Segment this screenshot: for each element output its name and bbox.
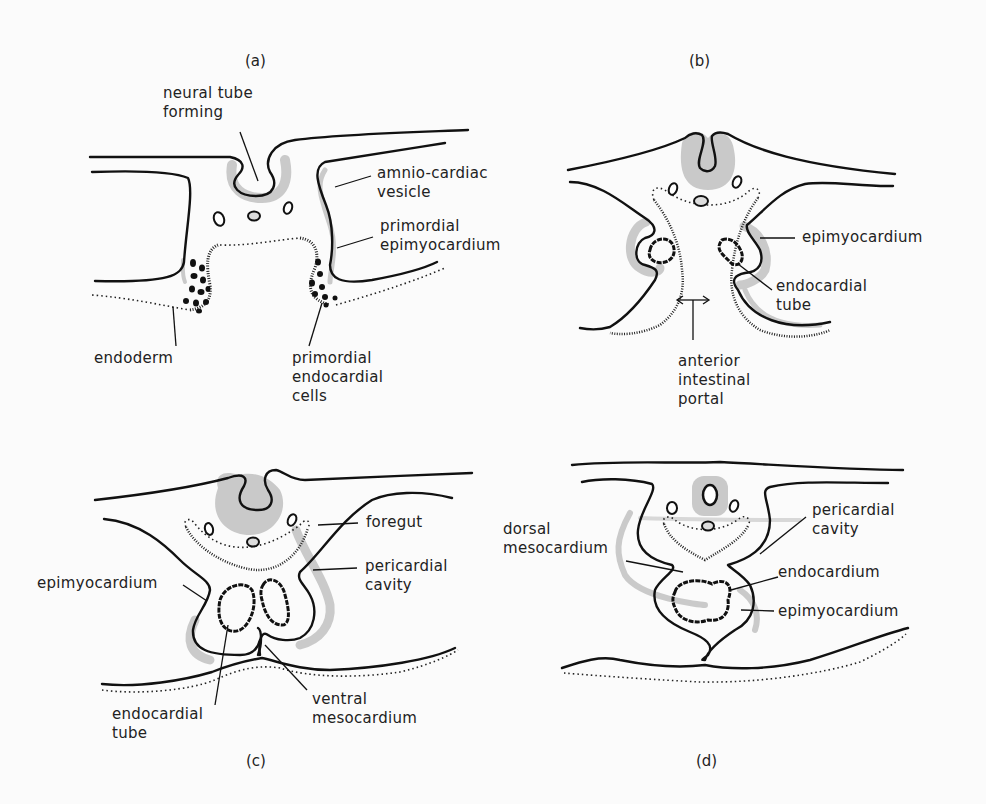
label-c-epimyocardium: epimyocardium — [37, 574, 158, 593]
figure-drawings — [0, 0, 986, 804]
label-ventral-mesocardium: ventral mesocardium — [312, 690, 417, 728]
label-primordial-epimyocardium: primordial epimyocardium — [380, 217, 501, 255]
label-endocardium: endocardium — [778, 563, 880, 582]
label-d-pericardial-cavity: pericardial cavity — [812, 501, 895, 539]
panel-a-label: (a) — [245, 52, 266, 70]
label-d-epimyocardium: epimyocardium — [778, 602, 899, 621]
label-anterior-intestinal-portal: anterior intestinal portal — [678, 352, 751, 409]
label-amnio-cardiac-vesicle: amnio-cardiac vesicle — [377, 164, 488, 202]
panel-d-label: (d) — [696, 752, 717, 770]
label-b-epimyocardium: epimyocardium — [802, 228, 923, 247]
panel-b-label: (b) — [689, 52, 710, 70]
embryo-heart-development-figure: (a) (b) (c) (d) neural tube forming amni… — [0, 0, 986, 804]
label-b-endocardial-tube: endocardial tube — [776, 277, 867, 315]
label-primordial-endocardial-cells: primordial endocardial cells — [292, 349, 383, 406]
label-c-endocardial-tube: endocardial tube — [112, 705, 203, 743]
panel-c-label: (c) — [246, 752, 266, 770]
label-c-pericardial-cavity: pericardial cavity — [365, 557, 448, 595]
label-endoderm: endoderm — [94, 349, 173, 368]
label-foregut: foregut — [366, 513, 423, 532]
primordial-endocardial-cells-left — [183, 259, 211, 314]
label-dorsal-mesocardium: dorsal mesocardium — [503, 520, 608, 558]
label-neural-tube-forming: neural tube forming — [163, 84, 253, 122]
